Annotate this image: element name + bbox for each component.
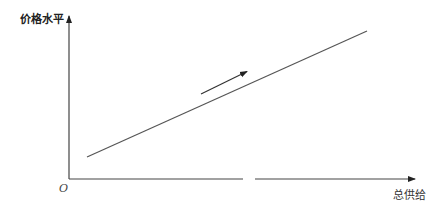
direction-arrow xyxy=(201,72,247,95)
aggregate-supply-curve xyxy=(87,31,367,157)
y-axis-label: 价格水平 xyxy=(20,10,64,26)
origin-label: O xyxy=(59,182,68,195)
x-axis-label: 总供给 xyxy=(393,186,426,202)
diagram-canvas xyxy=(0,0,446,206)
